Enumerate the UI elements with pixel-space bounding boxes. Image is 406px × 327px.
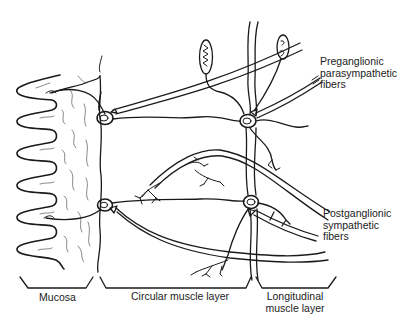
longitudinal-muscle-bracket	[256, 277, 336, 288]
postganglionic-label-line-1: Postganglionic	[323, 208, 391, 220]
circular-muscle-layer-label: Circular muscle layer	[120, 291, 240, 303]
region-brackets	[20, 277, 336, 288]
postganglionic-sympathetic-label: Postganglionic sympathetic fibers	[323, 208, 391, 243]
longitudinal-label-line-1: Longitudinal	[262, 291, 328, 303]
preganglionic-label-line-3: fibers	[320, 79, 397, 91]
myenteric-upper-output	[256, 120, 308, 127]
upper-interganglionic-fiber	[113, 117, 240, 121]
longitudinal-muscle-layer-label: Longitudinal muscle layer	[262, 291, 328, 314]
postganglionic-lower-pair	[254, 210, 318, 241]
preganglionic-label-line-1: Preganglionic	[320, 56, 397, 68]
mucosa-bracket	[20, 277, 93, 288]
preganglionic-parasympathetic-label: Preganglionic parasympathetic fibers	[320, 56, 397, 91]
preganglionic-input	[256, 76, 322, 118]
terminal-branches-upper	[135, 157, 224, 204]
enteric-nervous-system-diagram: Preganglionic parasympathetic fibers Pos…	[0, 0, 406, 327]
mucosa-folds	[17, 56, 102, 272]
circular-muscle-bracket	[100, 277, 251, 288]
lower-interganglionic-fiber	[112, 199, 244, 203]
longitudinal-label-line-2: muscle layer	[262, 303, 328, 315]
postganglionic-upper-arc	[150, 150, 330, 220]
mucosa-label: Mucosa	[30, 292, 85, 304]
diagram-artwork	[0, 0, 406, 327]
longitudinal-vertical-fiber	[246, 22, 258, 280]
postganglionic-label-line-3: fibers	[323, 231, 391, 243]
